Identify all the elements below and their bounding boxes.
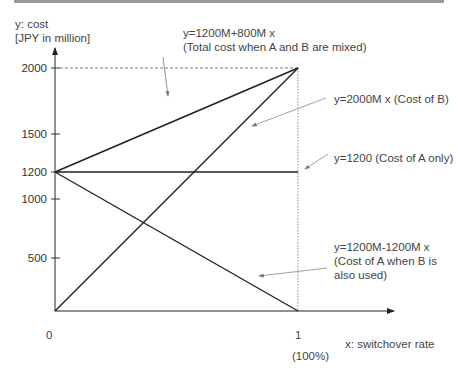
x-tick-0: 0 <box>46 328 52 342</box>
line-cost-a-with-b <box>55 172 298 311</box>
y-tick-2000: 2000 <box>7 62 47 74</box>
annotation-a-only: y=1200 (Cost of A only) <box>334 151 453 165</box>
x-tick-1: 1 <box>295 328 301 342</box>
chart-canvas <box>0 0 457 374</box>
y-tick-1500: 1500 <box>7 128 47 140</box>
line-cost-b <box>55 68 298 311</box>
annotation-b: y=2000M x (Cost of B) <box>334 92 449 106</box>
annotation-a-with-b-line2: (Cost of A when B is <box>334 254 437 268</box>
x-axis-label: x: switchover rate <box>345 337 434 351</box>
y-tick-500: 500 <box>7 252 47 264</box>
y-axis-label-line1: y: cost <box>15 17 48 31</box>
arrow-a-only <box>305 154 328 169</box>
y-tick-1200: 1200 <box>7 166 47 178</box>
annotation-a-with-b-line3: also used) <box>334 268 387 282</box>
annotation-total-line2: (Total cost when A and B are mixed) <box>183 40 366 54</box>
x-tick-note: (100%) <box>292 349 329 363</box>
annotation-a-with-b-line1: y=1200M-1200M x <box>334 240 430 254</box>
y-axis-label-line2: [JPY in million] <box>15 31 90 45</box>
arrow-a-with-b <box>259 268 327 276</box>
annotation-total-line1: y=1200M+800M x <box>183 26 275 40</box>
line-total-cost <box>55 68 298 172</box>
arrow-total <box>163 57 168 96</box>
y-tick-1000: 1000 <box>7 193 47 205</box>
